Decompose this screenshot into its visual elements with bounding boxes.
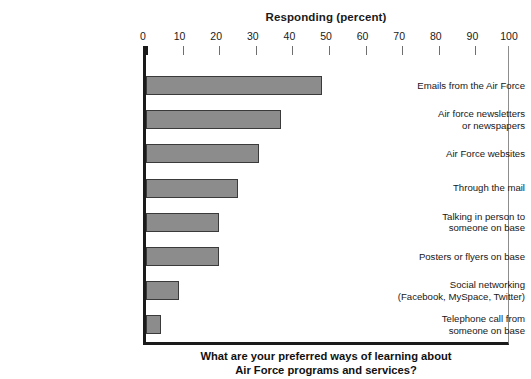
x-tick-mark-0 bbox=[146, 46, 148, 55]
category-label-line: Social networking bbox=[393, 279, 525, 291]
chart-caption-line: Air Force programs and services? bbox=[143, 364, 509, 378]
category-label: Air force newslettersor newspapers bbox=[393, 108, 531, 131]
bar bbox=[146, 247, 219, 266]
x-tick-label-30: 30 bbox=[247, 30, 259, 42]
category-label: Through the mail bbox=[393, 182, 531, 194]
category-label-line: Through the mail bbox=[393, 182, 525, 194]
bar bbox=[146, 281, 179, 300]
category-label: Air Force websites bbox=[393, 148, 531, 160]
x-tick-label-40: 40 bbox=[284, 30, 296, 42]
bar bbox=[146, 144, 259, 163]
x-tick-label-0: 0 bbox=[140, 30, 146, 42]
x-tick-mark-60 bbox=[366, 46, 367, 55]
x-tick-mark-90 bbox=[475, 46, 476, 55]
category-label-line: Air force newsletters bbox=[393, 108, 525, 120]
category-label: Telephone call fromsomeone on base bbox=[393, 313, 531, 336]
x-tick-mark-30 bbox=[256, 46, 257, 55]
category-label-line: Emails from the Air Force bbox=[393, 80, 525, 92]
bar bbox=[146, 110, 281, 129]
category-label-line: Telephone call from bbox=[393, 313, 525, 325]
bar bbox=[146, 213, 219, 232]
category-label: Social networking(Facebook, MySpace, Twi… bbox=[393, 279, 531, 302]
x-tick-mark-10 bbox=[183, 46, 184, 55]
x-tick-label-60: 60 bbox=[357, 30, 369, 42]
chart-caption: What are your preferred ways of learning… bbox=[143, 350, 509, 377]
category-label: Posters or flyers on base bbox=[393, 251, 531, 263]
category-label-line: or newspapers bbox=[393, 120, 525, 132]
bar bbox=[146, 179, 238, 198]
x-tick-label-50: 50 bbox=[320, 30, 332, 42]
category-label: Talking in person tosomeone on base bbox=[393, 211, 531, 234]
category-label-line: someone on base bbox=[393, 222, 525, 234]
category-label-line: someone on base bbox=[393, 325, 525, 337]
category-label-line: Posters or flyers on base bbox=[393, 251, 525, 263]
category-label-line: Air Force websites bbox=[393, 148, 525, 160]
x-tick-label-70: 70 bbox=[393, 30, 405, 42]
bar bbox=[146, 315, 161, 334]
x-tick-label-80: 80 bbox=[430, 30, 442, 42]
x-tick-label-20: 20 bbox=[210, 30, 222, 42]
x-tick-mark-40 bbox=[292, 46, 293, 55]
bar bbox=[146, 76, 322, 95]
x-tick-label-90: 90 bbox=[467, 30, 479, 42]
x-tick-mark-70 bbox=[402, 46, 403, 55]
x-tick-mark-80 bbox=[439, 46, 440, 55]
category-label: Emails from the Air Force bbox=[393, 80, 531, 92]
category-label-line: (Facebook, MySpace, Twitter) bbox=[393, 291, 525, 303]
x-tick-mark-50 bbox=[329, 46, 330, 55]
x-axis-title: Responding (percent) bbox=[143, 11, 509, 23]
x-tick-label-10: 10 bbox=[174, 30, 186, 42]
chart-caption-line: What are your preferred ways of learning… bbox=[143, 350, 509, 364]
x-tick-label-100: 100 bbox=[500, 30, 518, 42]
x-tick-mark-20 bbox=[219, 46, 220, 55]
category-label-line: Talking in person to bbox=[393, 211, 525, 223]
x-axis-tick-labels: 0102030405060708090100 bbox=[0, 30, 531, 44]
